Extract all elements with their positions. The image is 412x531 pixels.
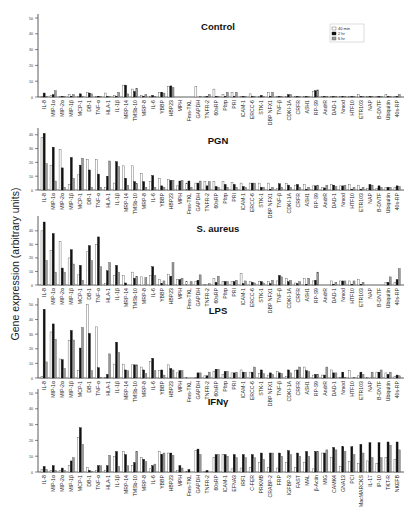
y-tick-label: 20 <box>29 161 33 165</box>
bar <box>161 455 163 472</box>
x-tick-label: TNF-β <box>276 381 282 396</box>
x-tick-label: TMSb-10 <box>132 381 138 402</box>
bar <box>116 162 118 190</box>
bar <box>199 275 201 285</box>
bar <box>116 451 118 472</box>
x-tick-label: HLA-1 <box>105 475 111 490</box>
x-tick-label: B-DNTF <box>376 100 382 119</box>
bar <box>163 93 165 97</box>
bar <box>306 371 308 378</box>
x-tick-label: IL-8 <box>41 100 47 109</box>
x-tick-label: Fms-TKL <box>186 381 192 402</box>
bar <box>204 96 206 97</box>
x-tick-label: RP-S9 <box>313 100 319 115</box>
x-tick-label: TKT-R <box>385 475 391 490</box>
bar <box>217 187 219 190</box>
bar <box>344 377 346 378</box>
bar <box>118 92 120 97</box>
x-tick-label: GAPDH <box>195 475 201 494</box>
x-tick-label: NAP <box>367 192 373 203</box>
bar <box>118 167 120 190</box>
legend-swatch <box>332 37 336 40</box>
x-tick-label: IL-1β <box>114 288 120 300</box>
x-tick-label: HTF10 <box>349 193 355 209</box>
x-tick-label: IRF1 <box>240 475 246 486</box>
x-tick-label: MPH <box>177 381 183 393</box>
bar <box>315 186 317 190</box>
y-tick-label: 30 <box>29 423 33 427</box>
x-tick-label: EFNA3 <box>231 475 237 492</box>
bar <box>127 185 129 190</box>
bar <box>387 187 389 190</box>
x-tick-label: IL-6 <box>150 288 156 297</box>
bar <box>249 282 251 285</box>
x-tick-label: HLA-1 <box>105 100 111 115</box>
x-tick-label: B-DNTF <box>376 381 382 400</box>
bar <box>253 183 255 190</box>
bar <box>317 451 319 472</box>
bar <box>195 377 197 378</box>
bar <box>297 370 299 378</box>
bar <box>263 374 265 378</box>
x-tick-label: MIP-1β <box>68 193 74 210</box>
x-tick-label: MIP-1α <box>50 288 56 305</box>
bar <box>170 180 172 190</box>
bar <box>195 451 197 472</box>
bar <box>267 92 269 97</box>
x-tick-label: TNF-α <box>95 381 101 396</box>
bar <box>269 284 271 285</box>
bar <box>240 273 242 285</box>
x-tick-label: Fms-TKL <box>186 475 192 496</box>
bar <box>258 463 260 472</box>
x-tick-label: Fms-TKL <box>186 288 192 309</box>
bar <box>333 373 335 378</box>
bar <box>95 244 97 285</box>
bar <box>141 277 143 285</box>
bar <box>378 186 380 190</box>
bar <box>306 189 308 190</box>
bar <box>290 373 292 378</box>
bar <box>179 371 181 378</box>
bar <box>188 181 190 190</box>
bar <box>299 456 301 472</box>
bar <box>285 463 287 472</box>
bar <box>68 466 70 472</box>
bar <box>276 189 278 190</box>
bar <box>109 263 111 285</box>
bar <box>281 277 283 285</box>
bar <box>253 283 255 285</box>
bar <box>240 183 242 190</box>
x-tick-label: DB-1 <box>86 475 92 487</box>
x-tick-label: DB-1 <box>86 100 92 112</box>
bar <box>394 377 396 378</box>
bar <box>50 250 52 285</box>
y-tick-label: 50 <box>29 303 33 307</box>
bar <box>208 182 210 190</box>
bar <box>154 276 156 285</box>
bar <box>181 180 183 190</box>
x-tick-label: ASH1 <box>304 193 310 207</box>
bar <box>358 376 360 378</box>
bar <box>199 373 201 378</box>
y-tick-label: 30 <box>29 147 33 151</box>
bar <box>52 466 54 472</box>
bar <box>290 95 292 97</box>
x-tick-label: GAPDH <box>195 193 201 212</box>
bar <box>331 458 333 472</box>
bar <box>387 282 389 285</box>
bar <box>353 377 355 378</box>
bar <box>179 280 181 285</box>
bar <box>288 282 290 285</box>
bar <box>163 453 165 472</box>
bar <box>367 461 369 472</box>
x-tick-label: GAPDH <box>195 100 201 119</box>
y-tick-label: 10 <box>29 80 33 84</box>
bar <box>367 377 369 378</box>
x-tick-label: CDKI-1A <box>286 192 292 213</box>
bar <box>249 467 251 472</box>
bar <box>258 282 260 285</box>
bar <box>260 370 262 378</box>
x-tick-label: NAP <box>367 99 373 110</box>
bar <box>285 96 287 97</box>
x-tick-label: DBP NFX1 <box>267 288 273 313</box>
